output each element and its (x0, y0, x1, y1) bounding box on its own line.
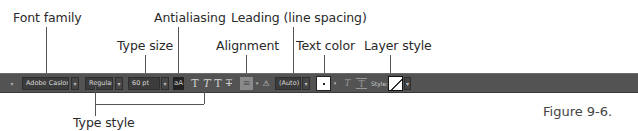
leader-font-family (46, 27, 47, 75)
text-color-dropdown[interactable]: ▾ (332, 77, 338, 90)
font-family-dropdown[interactable]: ▾ (71, 77, 79, 90)
leading-field[interactable]: (Auto) (275, 77, 301, 90)
type-style-strike-button[interactable]: T (224, 77, 234, 90)
style-label: Style: (371, 77, 388, 90)
font-style-field[interactable]: Regular (85, 77, 113, 90)
text-color-swatch[interactable] (316, 76, 331, 91)
callout-antialiasing: Antialiasing (154, 10, 226, 25)
font-size-field[interactable]: 60 pt (128, 77, 160, 90)
leader-type-style-left (95, 86, 96, 116)
callout-type-size: Type size (117, 38, 173, 53)
text-frame-icon[interactable]: T (356, 78, 367, 89)
leader-leading (293, 27, 294, 75)
callout-alignment: Alignment (216, 38, 279, 53)
figure-caption: Figure 9-6. (543, 104, 612, 119)
callout-leading: Leading (line spacing) (231, 10, 367, 25)
leading-dropdown[interactable]: ▾ (302, 77, 310, 90)
callout-layer-style: Layer style (364, 38, 432, 53)
warp-text-icon[interactable]: ⚠ (261, 77, 271, 90)
antialiasing-icon[interactable]: aA (173, 77, 184, 90)
font-style-dropdown[interactable]: ▾ (115, 77, 123, 90)
callout-type-style: Type style (73, 115, 135, 130)
layer-style-dropdown[interactable]: ▾ (404, 77, 411, 90)
leader-layer-style (390, 55, 391, 75)
tool-preset-picker[interactable]: ▾ (8, 77, 16, 90)
baseline-shift-icon[interactable]: T (343, 77, 352, 90)
font-size-dropdown[interactable]: ▾ (161, 77, 169, 90)
type-style-thin-button[interactable]: T (213, 77, 223, 90)
layer-style-swatch[interactable] (388, 76, 403, 91)
leader-type-style-right (204, 86, 205, 104)
callout-text-color: Text color (296, 38, 355, 53)
leader-type-size (145, 55, 146, 75)
leader-antialiasing (178, 27, 179, 75)
alignment-icon[interactable]: ≡ (240, 77, 253, 90)
leader-alignment (246, 55, 247, 75)
alignment-dropdown[interactable]: ▾ (254, 77, 260, 90)
font-family-field[interactable]: Adobe Caslon ... (22, 77, 69, 90)
callout-font-family: Font family (13, 10, 82, 25)
swatch-dot-icon (323, 83, 325, 85)
leader-text-color (324, 55, 325, 75)
leader-type-style-bracket (96, 104, 204, 105)
type-style-regular-button[interactable]: T (190, 77, 200, 90)
